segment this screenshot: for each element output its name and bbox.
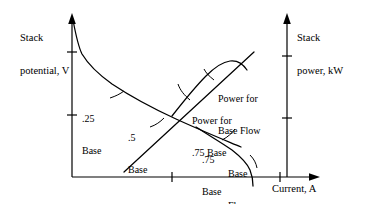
annotation-025-base-line2: Base <box>82 146 101 157</box>
right-axis-title: Stack power, kW <box>297 10 343 98</box>
leader-line-power-075-base <box>178 84 190 100</box>
x-axis-title: Current, A <box>272 183 316 194</box>
right-y-axis-arrowhead <box>283 13 291 24</box>
x-axis-arrowhead <box>309 173 320 181</box>
annotation-075-base-line2: Base <box>202 187 221 198</box>
leader-line-025-base <box>110 91 124 98</box>
left-axis-title-line1: Stack <box>20 32 69 43</box>
chart-figure: Stack potential, V Stack power, kW Curre… <box>0 0 369 204</box>
right-axis-title-line1: Stack <box>297 32 343 43</box>
right-axis-title-line2: power, kW <box>297 65 343 76</box>
leader-line-05-base <box>150 118 164 127</box>
annotation-05-base-line1: .5 <box>128 133 147 144</box>
annotation-025-base: .25 Base <box>82 93 101 177</box>
left-axis-title-line2: potential, V <box>20 65 69 76</box>
annotation-power-075-base: Power for .75 Base <box>192 95 232 179</box>
annotation-05-base-line2: Base <box>128 165 147 176</box>
left-axis-title: Stack potential, V <box>20 10 69 98</box>
annotation-05-base: .5 Base <box>128 112 147 196</box>
right-y-axis <box>282 13 292 177</box>
annotation-power-075-base-line1: Power for <box>192 116 232 127</box>
annotation-base-flow-line2: Flow <box>228 201 249 205</box>
annotation-power-075-base-line2: .75 Base <box>192 148 232 159</box>
annotation-025-base-line1: .25 <box>82 114 101 125</box>
